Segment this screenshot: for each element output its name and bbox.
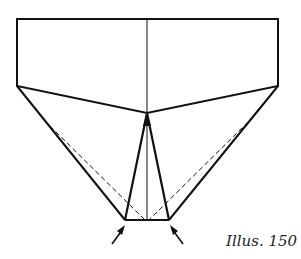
origami-diagram <box>0 0 301 259</box>
left-outer-edge <box>17 86 125 220</box>
left-dashed-fold <box>50 126 145 220</box>
arrowhead-right-icon <box>170 225 178 235</box>
left-inner-flap <box>125 113 147 220</box>
illustration-caption: Illus. 150 <box>226 232 297 250</box>
arrowhead-left-icon <box>117 225 125 235</box>
right-dashed-fold <box>149 122 248 220</box>
